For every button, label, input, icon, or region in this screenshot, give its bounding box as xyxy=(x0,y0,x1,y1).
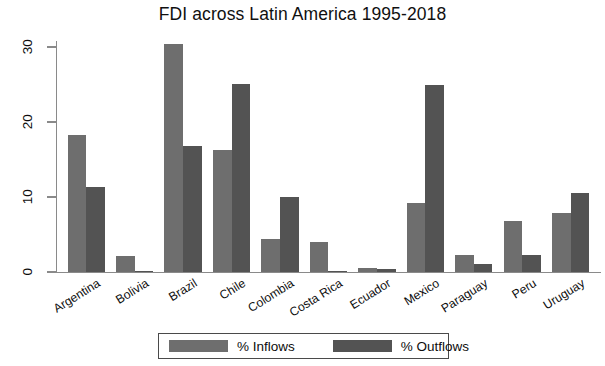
bar-group xyxy=(498,40,546,272)
chart-title: FDI across Latin America 1995-2018 xyxy=(0,4,605,25)
bar-outflow xyxy=(86,187,105,273)
bar-inflow xyxy=(261,239,280,272)
bar-inflow xyxy=(310,242,329,272)
bar-outflow xyxy=(522,255,541,272)
bar-group xyxy=(450,40,498,272)
chart-legend: % Inflows% Outflows xyxy=(158,333,449,359)
bar-outflow xyxy=(280,197,299,272)
plot-area xyxy=(62,40,595,272)
bar-inflow xyxy=(213,150,232,272)
bar-outflow xyxy=(135,271,154,272)
bar-outflow xyxy=(571,193,590,272)
bar-group xyxy=(256,40,304,272)
bar-inflow xyxy=(358,268,377,273)
legend-label: % Inflows xyxy=(237,339,295,354)
bar-group xyxy=(207,40,255,272)
bar-outflow xyxy=(328,271,347,272)
bar-inflow xyxy=(68,135,87,272)
legend-entry: % Outflows xyxy=(323,334,469,358)
bar-group xyxy=(547,40,595,272)
bar-inflow xyxy=(164,44,183,272)
y-tick-mark xyxy=(47,46,57,47)
bar-group xyxy=(304,40,352,272)
bar-outflow xyxy=(232,84,251,272)
bar-group xyxy=(110,40,158,272)
y-tick-label: 20 xyxy=(14,115,42,129)
y-tick-mark xyxy=(47,121,57,122)
bar-outflow xyxy=(425,85,444,272)
y-tick-label: 10 xyxy=(14,190,42,204)
bar-outflow xyxy=(474,264,493,272)
bar-inflow xyxy=(407,203,426,272)
y-tick-mark xyxy=(47,271,57,272)
y-tick-label: 30 xyxy=(14,40,42,54)
bar-inflow xyxy=(504,221,523,272)
bar-group xyxy=(62,40,110,272)
legend-entry: % Inflows xyxy=(159,334,295,358)
legend-label: % Outflows xyxy=(401,339,469,354)
bar-chart: FDI across Latin America 1995-2018 01020… xyxy=(0,0,605,366)
bar-inflow xyxy=(455,255,474,272)
legend-swatch xyxy=(333,340,392,352)
bar-inflow xyxy=(116,256,135,273)
bar-outflow xyxy=(183,146,202,272)
y-axis-line xyxy=(56,41,57,273)
y-tick-mark xyxy=(47,196,57,197)
y-tick-label: 0 xyxy=(14,265,42,279)
bar-outflow xyxy=(377,269,396,272)
bar-group xyxy=(353,40,401,272)
bar-group xyxy=(401,40,449,272)
x-axis-line xyxy=(47,272,601,273)
bar-group xyxy=(159,40,207,272)
legend-swatch xyxy=(169,340,228,352)
bar-inflow xyxy=(552,213,571,272)
